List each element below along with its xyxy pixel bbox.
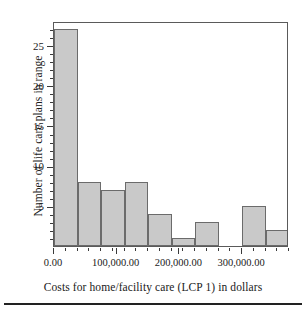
x-axis-minor-tick-mark <box>229 248 230 251</box>
x-axis-minor-tick-mark <box>65 248 66 251</box>
x-axis-minor-tick-mark <box>265 248 266 251</box>
histogram-bar <box>172 238 196 246</box>
y-axis-tick-mark <box>47 46 53 47</box>
histogram-bar <box>195 222 219 246</box>
histogram-bar <box>101 190 125 246</box>
x-axis-minor-tick-mark <box>253 248 254 251</box>
histogram-bar <box>266 230 289 246</box>
y-axis-tick-mark <box>47 86 53 87</box>
y-axis-tick-mark <box>47 207 53 208</box>
y-axis-minor-tick-mark <box>50 70 53 71</box>
x-axis-minor-tick-mark <box>159 248 160 251</box>
x-axis-title: Costs for home/facility care (LCP 1) in … <box>0 281 306 293</box>
histogram-bar <box>78 182 102 246</box>
y-axis-minor-tick-mark <box>50 223 53 224</box>
histogram-bar <box>54 29 78 246</box>
x-axis-tick-label: 0.00 <box>44 258 62 269</box>
x-axis-minor-tick-mark <box>276 248 277 251</box>
y-axis-minor-tick-mark <box>50 231 53 232</box>
x-axis-tick-label: 100,000.00 <box>92 258 139 269</box>
y-axis-minor-tick-mark <box>50 54 53 55</box>
y-axis-tick-mark <box>47 126 53 127</box>
x-axis-tick-mark <box>178 248 179 254</box>
page-divider-rule <box>4 303 302 305</box>
y-axis-minor-tick-mark <box>50 183 53 184</box>
x-axis-minor-tick-mark <box>182 248 183 251</box>
y-axis-minor-tick-mark <box>50 199 53 200</box>
x-axis-minor-tick-mark <box>135 248 136 251</box>
y-axis-tick-label: 20 <box>22 81 44 92</box>
histogram-bar <box>125 182 149 246</box>
x-axis-tick-mark <box>241 248 242 254</box>
x-axis-tick-mark <box>53 248 54 254</box>
bar-series <box>54 23 287 246</box>
y-axis-minor-tick-mark <box>50 143 53 144</box>
y-axis-minor-tick-mark <box>50 78 53 79</box>
x-axis-minor-tick-mark <box>112 248 113 251</box>
y-axis-minor-tick-mark <box>50 191 53 192</box>
y-axis-minor-tick-mark <box>50 94 53 95</box>
x-axis-tick-label: 300,000.00 <box>217 258 264 269</box>
y-axis-minor-tick-mark <box>50 239 53 240</box>
y-axis-minor-tick-mark <box>50 102 53 103</box>
x-axis-minor-tick-mark <box>288 248 289 251</box>
y-axis-minor-tick-mark <box>50 38 53 39</box>
x-axis-minor-tick-mark <box>147 248 148 251</box>
y-axis-minor-tick-mark <box>50 151 53 152</box>
histogram-bar <box>148 214 172 246</box>
y-axis-tick-label: 10 <box>22 161 44 172</box>
y-axis-tick-label: 5 <box>22 201 44 212</box>
y-axis-tick-label: 15 <box>22 121 44 132</box>
x-axis-tick-label: 200,000.00 <box>155 258 202 269</box>
y-axis-minor-tick-mark <box>50 135 53 136</box>
y-axis-minor-tick-mark <box>50 159 53 160</box>
histogram-figure: Number of life care plans in range 51015… <box>0 0 306 314</box>
y-axis-minor-tick-mark <box>50 110 53 111</box>
y-axis-tick-mark <box>47 167 53 168</box>
x-axis-minor-tick-mark <box>88 248 89 251</box>
x-axis-minor-tick-mark <box>100 248 101 251</box>
x-axis-minor-tick-mark <box>206 248 207 251</box>
x-axis-minor-tick-mark <box>124 248 125 251</box>
histogram-bar <box>242 206 266 246</box>
plot-area <box>53 22 288 247</box>
y-axis-minor-tick-mark <box>50 215 53 216</box>
x-axis-tick-mark <box>116 248 117 254</box>
x-axis-minor-tick-mark <box>194 248 195 251</box>
x-axis-tick-labels: 0.00100,000.00200,000.00300,000.00 <box>0 258 306 272</box>
y-axis-tick-label: 25 <box>22 41 44 52</box>
y-axis-minor-tick-mark <box>50 118 53 119</box>
x-axis-minor-tick-mark <box>171 248 172 251</box>
y-axis-minor-tick-mark <box>50 30 53 31</box>
y-axis-minor-tick-mark <box>50 175 53 176</box>
x-axis-minor-tick-mark <box>218 248 219 251</box>
x-axis-minor-tick-mark <box>77 248 78 251</box>
y-axis-minor-tick-mark <box>50 62 53 63</box>
